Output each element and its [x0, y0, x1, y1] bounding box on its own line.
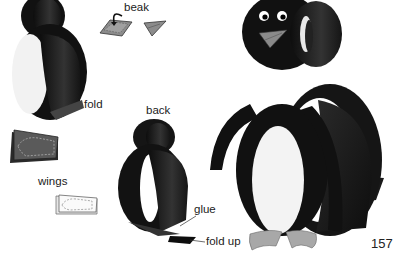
wing-white-template-illustration [56, 195, 97, 214]
front-ring-assembly-illustration [12, 0, 87, 120]
label-wings: wings [38, 175, 67, 187]
beak-fold-illustration [100, 14, 166, 36]
illustrations-canvas [0, 0, 393, 260]
label-beak: beak [124, 1, 149, 13]
wing-black-template-illustration [10, 130, 58, 163]
craft-page: beak fold back wings glue fold up 157 [0, 0, 393, 260]
label-glue: glue [194, 203, 216, 215]
finished-penguin-illustration [210, 0, 384, 250]
back-ring-assembly-illustration [118, 119, 205, 244]
label-fold: fold [84, 98, 103, 110]
label-fold-up: fold up [206, 235, 241, 247]
page-number: 157 [371, 236, 393, 251]
label-back: back [146, 104, 170, 116]
